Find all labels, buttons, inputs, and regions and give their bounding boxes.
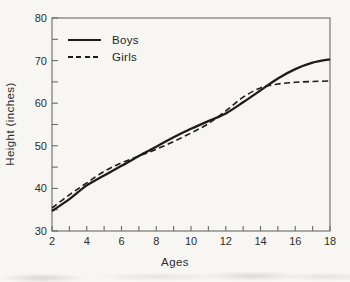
x-tick-label: 18 [324,235,336,247]
scan-artifact-band [0,269,350,282]
x-tick-label: 2 [49,235,55,247]
y-tick-label: 40 [35,182,47,194]
legend-label-boys: Boys [112,34,139,46]
girls-curve [52,81,330,208]
legend-item-girls: Girls [68,51,139,63]
x-axis-title: Ages [0,256,350,268]
y-tick-label: 30 [35,225,47,237]
legend-label-girls: Girls [112,51,137,63]
x-tick-label: 14 [254,235,266,247]
x-tick-label: 4 [84,235,90,247]
y-tick-label: 60 [35,97,47,109]
y-tick-label: 50 [35,140,47,152]
chart-legend: Boys Girls [68,34,139,63]
x-tick-label: 10 [185,235,197,247]
chart-plot-area: 24681012141618304050607080 [0,0,350,282]
girls-dashed-line-icon [68,56,101,58]
x-tick-label: 16 [289,235,301,247]
growth-chart-figure: 24681012141618304050607080 Boys Girls He… [0,0,350,282]
boys-curve [52,59,330,211]
y-axis-title: Height (inches) [4,69,16,179]
x-tick-label: 8 [153,235,159,247]
x-tick-label: 12 [220,235,232,247]
x-tick-label: 6 [118,235,124,247]
legend-item-boys: Boys [68,34,139,46]
y-tick-label: 80 [35,12,47,24]
y-tick-label: 70 [35,55,47,67]
boys-solid-line-icon [68,39,101,41]
